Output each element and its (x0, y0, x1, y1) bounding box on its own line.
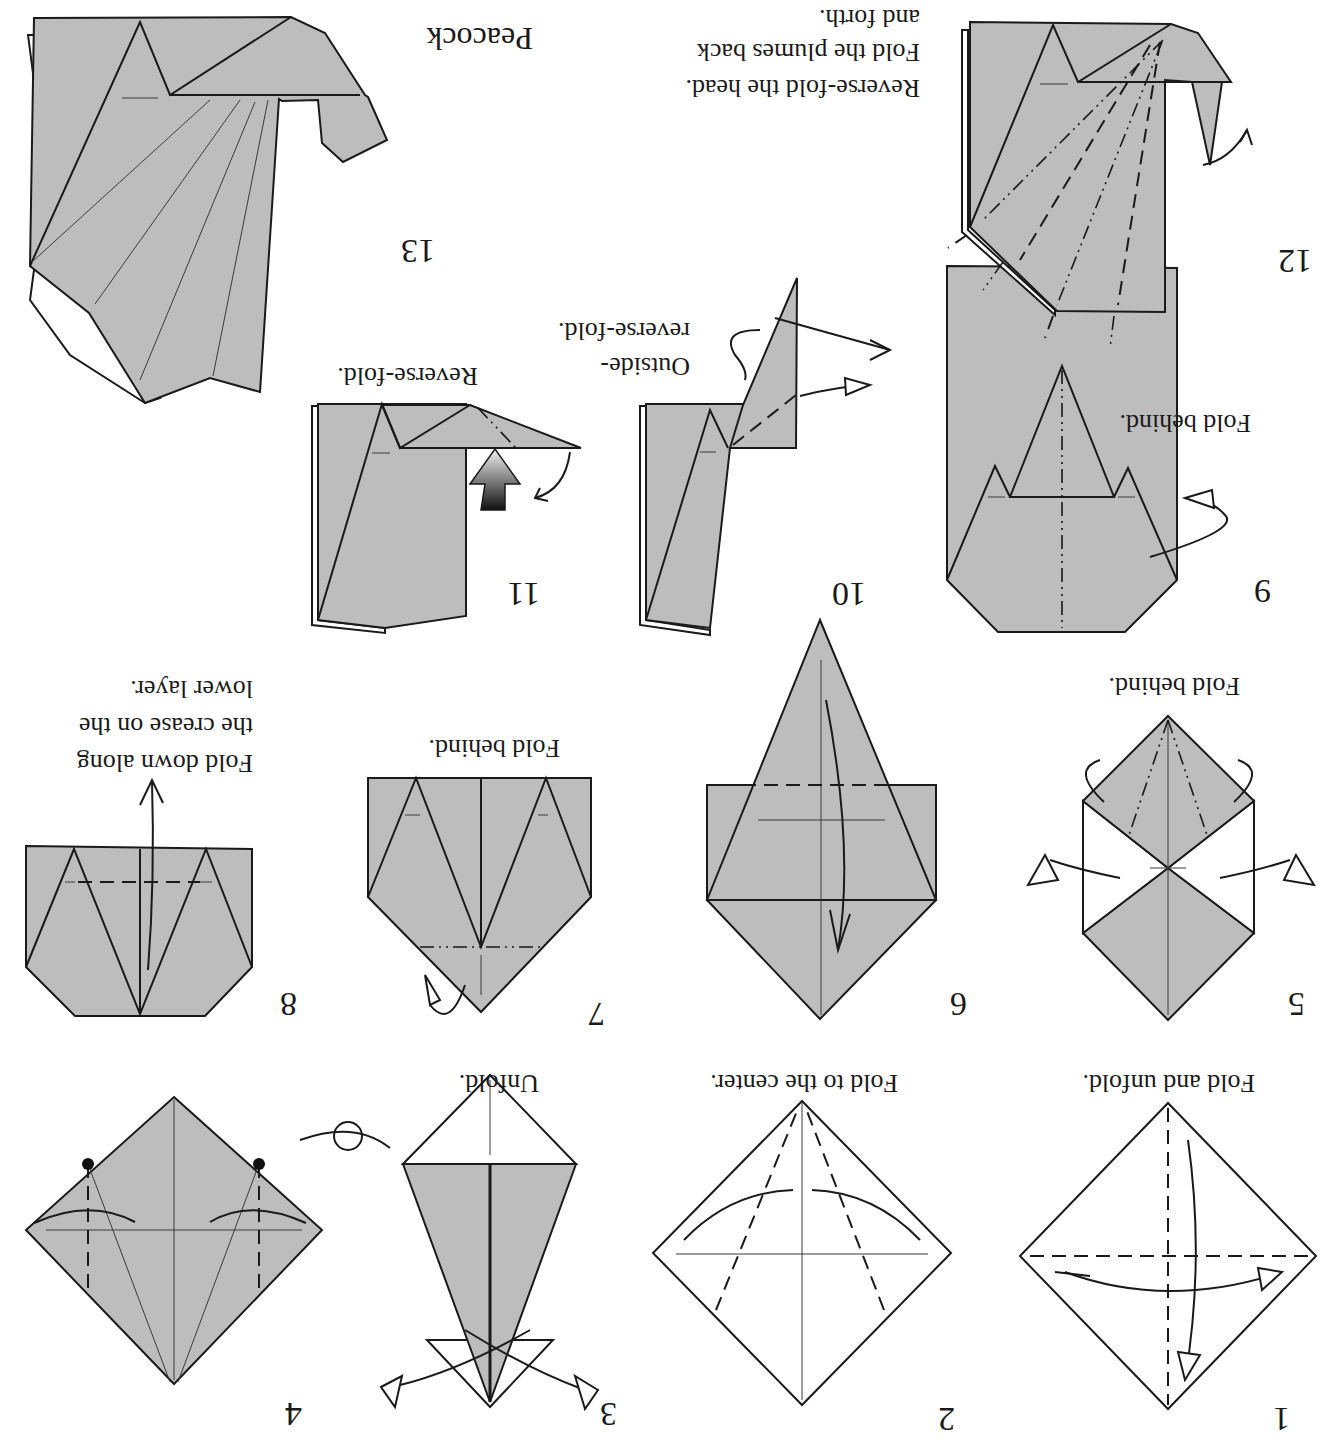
step-3-number: 3 (600, 1396, 617, 1433)
step-10-caption-line-1: Outside- (600, 352, 690, 381)
step-9-diagram (947, 266, 1227, 632)
model-title: Peacock (426, 21, 533, 57)
step-2-number: 2 (938, 1401, 955, 1438)
step-4-number: 4 (285, 1396, 302, 1433)
step-12-number: 12 (1278, 243, 1312, 280)
step-7-caption: Fold behind. (429, 734, 560, 763)
step-11-caption: Reverse-fold. (337, 362, 478, 391)
step-1-diagram (1020, 1103, 1316, 1409)
origami-diagram-page: 1 Fold and unfold. 2 Fold to the center.… (0, 0, 1337, 1442)
step-13-diagram (28, 17, 387, 403)
step-6-diagram (707, 620, 936, 1019)
step-12-caption-line-2: Fold the plumes back (697, 38, 920, 67)
step-7-number: 7 (588, 996, 605, 1033)
step-8-number: 8 (280, 986, 297, 1023)
step-1-caption: Fold and unfold. (1082, 1069, 1255, 1098)
diagram-canvas: 1 Fold and unfold. 2 Fold to the center.… (0, 0, 1337, 1442)
step-4-diagram (26, 1097, 390, 1384)
step-6-number: 6 (950, 986, 967, 1023)
step-9-number: 9 (1254, 573, 1271, 610)
step-8-caption-line-2: the crease on the (79, 712, 253, 741)
step-1-number: 1 (1273, 1401, 1290, 1438)
step-2-caption: Fold to the center. (710, 1069, 898, 1098)
turn-over-icon (300, 1132, 390, 1148)
step-7-diagram (368, 778, 591, 1014)
step-3-diagram (381, 1075, 598, 1409)
step-5-diagram (1028, 716, 1314, 1020)
step-8-caption-line-3: lower layer. (130, 675, 253, 704)
reference-dot (82, 1158, 94, 1170)
step-9-caption: Fold behind. (1120, 409, 1251, 438)
step-13-number: 13 (401, 233, 435, 270)
step-10-number: 10 (832, 576, 866, 613)
step-5-caption: Fold behind. (1109, 672, 1240, 701)
step-8-diagram (26, 780, 252, 1016)
step-11-number: 11 (507, 576, 540, 613)
step-5-number: 5 (1288, 986, 1305, 1023)
step-12-caption-line-3: and forth. (819, 4, 920, 33)
step-12-caption-line-1: Reverse-fold the head. (685, 74, 920, 103)
step-2-diagram (653, 1101, 951, 1405)
push-arrow-icon (470, 449, 520, 510)
step-10-caption-line-2: reverse-fold. (558, 317, 690, 346)
step-3-caption: Unfold. (459, 1069, 539, 1098)
reference-dot (253, 1158, 265, 1170)
step-8-caption-line-1: Fold down along (77, 749, 253, 778)
